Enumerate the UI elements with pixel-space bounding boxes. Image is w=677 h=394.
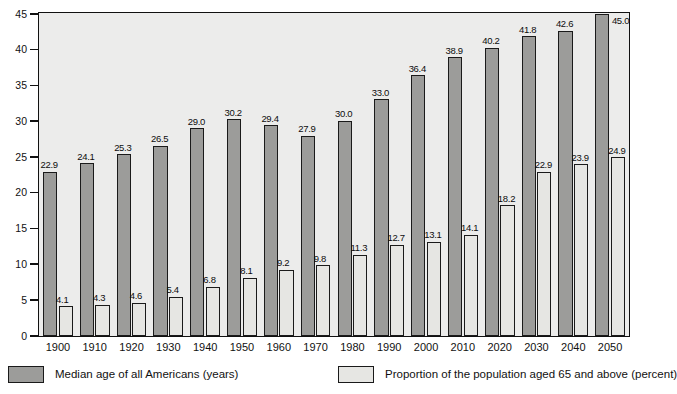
x-axis-tick-label: 1930 bbox=[150, 340, 187, 354]
bar-median-age[interactable] bbox=[448, 57, 462, 335]
bar-value-label: 13.1 bbox=[424, 230, 441, 240]
y-axis-tick-mark bbox=[30, 49, 38, 51]
bar-value-label: 29.4 bbox=[261, 114, 278, 124]
bar-proportion-65plus[interactable] bbox=[427, 242, 441, 336]
bar-value-label: 33.0 bbox=[372, 88, 389, 98]
y-axis-tick-mark bbox=[30, 120, 38, 122]
bar-proportion-65plus[interactable] bbox=[243, 278, 257, 336]
legend-item[interactable]: Proportion of the population aged 65 and… bbox=[338, 363, 677, 385]
bar-value-label: 42.6 bbox=[556, 19, 573, 29]
bar-value-label: 14.1 bbox=[461, 223, 478, 233]
x-axis-tick-label: 2000 bbox=[408, 340, 445, 354]
x-axis-tick-label: 1940 bbox=[187, 340, 224, 354]
bar-proportion-65plus[interactable] bbox=[390, 245, 404, 336]
bar-group: 38.914.1 bbox=[444, 14, 481, 336]
bar-group: 22.94.1 bbox=[40, 14, 77, 336]
bar-value-label: 29.0 bbox=[188, 117, 205, 127]
y-axis-tick-mark bbox=[30, 156, 38, 158]
bar-value-label: 25.3 bbox=[114, 143, 131, 153]
bar-group: 29.06.8 bbox=[187, 14, 224, 336]
x-axis-tick-label: 1980 bbox=[334, 340, 371, 354]
bar-group: 29.49.2 bbox=[260, 14, 297, 336]
bar-value-label: 24.1 bbox=[77, 152, 94, 162]
y-axis-tick-mark bbox=[30, 335, 38, 337]
chart-legend: Median age of all Americans (years)Propo… bbox=[8, 363, 628, 387]
bar-proportion-65plus[interactable] bbox=[95, 305, 109, 336]
bar-value-label: 11.3 bbox=[351, 243, 368, 253]
legend-swatch-median bbox=[8, 366, 44, 383]
bar-value-label: 4.6 bbox=[130, 291, 142, 301]
bar-value-label: 9.8 bbox=[314, 254, 326, 264]
bar-proportion-65plus[interactable] bbox=[59, 306, 73, 335]
bar-median-age[interactable] bbox=[558, 31, 572, 336]
y-axis-tick-label: 25 bbox=[15, 151, 27, 163]
bar-proportion-65plus[interactable] bbox=[279, 270, 293, 336]
bar-median-age[interactable] bbox=[80, 163, 94, 335]
y-axis-tick-mark bbox=[30, 85, 38, 87]
x-axis: 1900191019201930194019501960197019801990… bbox=[40, 340, 629, 358]
y-axis-tick-mark bbox=[30, 263, 38, 265]
bar-median-age[interactable] bbox=[522, 36, 536, 335]
bar-median-age[interactable] bbox=[374, 99, 388, 335]
bar-median-age[interactable] bbox=[338, 121, 352, 336]
bar-median-age[interactable] bbox=[43, 172, 57, 336]
y-axis-tick-label: 5 bbox=[21, 294, 27, 306]
y-axis-tick-label: 15 bbox=[15, 222, 27, 234]
bar-group: 30.28.1 bbox=[224, 14, 261, 336]
bar-proportion-65plus[interactable] bbox=[353, 255, 367, 336]
bar-median-age[interactable] bbox=[153, 146, 167, 336]
bar-group: 33.012.7 bbox=[371, 14, 408, 336]
legend-label: Proportion of the population aged 65 and… bbox=[385, 368, 677, 380]
bar-value-label: 5.4 bbox=[167, 285, 179, 295]
bar-proportion-65plus[interactable] bbox=[537, 172, 551, 336]
bar-proportion-65plus[interactable] bbox=[316, 265, 330, 335]
bar-group: 42.623.9 bbox=[555, 14, 592, 336]
x-axis-tick-label: 2040 bbox=[555, 340, 592, 354]
bar-value-label: 24.9 bbox=[608, 146, 625, 156]
bar-group: 40.218.2 bbox=[481, 14, 518, 336]
bar-value-label: 30.2 bbox=[225, 108, 242, 118]
legend-swatch-proportion bbox=[338, 366, 374, 383]
bar-median-age[interactable] bbox=[227, 119, 241, 335]
bar-value-label: 27.9 bbox=[298, 124, 315, 134]
bars-layer: 22.94.124.14.325.34.626.55.429.06.830.28… bbox=[40, 14, 629, 336]
bar-proportion-65plus[interactable] bbox=[132, 303, 146, 336]
bar-median-age[interactable] bbox=[264, 125, 278, 335]
bar-proportion-65plus[interactable] bbox=[169, 297, 183, 336]
bar-value-label: 8.1 bbox=[240, 266, 252, 276]
bar-proportion-65plus[interactable] bbox=[611, 157, 625, 335]
bar-value-label: 45.0 bbox=[612, 16, 629, 26]
bar-median-age[interactable] bbox=[190, 128, 204, 336]
bar-proportion-65plus[interactable] bbox=[206, 287, 220, 336]
bar-value-label: 18.2 bbox=[498, 194, 515, 204]
x-axis-tick-label: 2030 bbox=[518, 340, 555, 354]
bar-value-label: 22.9 bbox=[41, 160, 58, 170]
x-axis-tick-label: 1920 bbox=[113, 340, 150, 354]
bar-proportion-65plus[interactable] bbox=[574, 164, 588, 335]
x-axis-tick-label: 1900 bbox=[40, 340, 77, 354]
y-axis-tick-label: 45 bbox=[15, 8, 27, 20]
legend-label: Median age of all Americans (years) bbox=[55, 368, 238, 380]
bar-median-age[interactable] bbox=[595, 14, 609, 336]
y-axis-tick-label: 0 bbox=[21, 330, 27, 342]
bar-proportion-65plus[interactable] bbox=[464, 235, 478, 336]
bar-median-age[interactable] bbox=[485, 48, 499, 336]
legend-item[interactable]: Median age of all Americans (years) bbox=[8, 363, 238, 385]
y-axis-tick-mark bbox=[30, 299, 38, 301]
x-axis-tick-label: 1910 bbox=[76, 340, 113, 354]
y-axis-tick-mark bbox=[30, 13, 38, 15]
bar-median-age[interactable] bbox=[411, 75, 425, 335]
bar-median-age[interactable] bbox=[117, 154, 131, 335]
x-axis-tick-label: 1950 bbox=[224, 340, 261, 354]
x-axis-tick-label: 1990 bbox=[371, 340, 408, 354]
bar-group: 45.024.9 bbox=[592, 14, 629, 336]
y-axis-tick-label: 20 bbox=[15, 186, 27, 198]
bar-median-age[interactable] bbox=[301, 136, 315, 336]
bar-value-label: 36.4 bbox=[409, 64, 426, 74]
x-axis-tick-label: 2020 bbox=[481, 340, 518, 354]
bar-value-label: 41.8 bbox=[519, 25, 536, 35]
bar-value-label: 23.9 bbox=[571, 153, 588, 163]
bar-value-label: 40.2 bbox=[482, 36, 499, 46]
bar-proportion-65plus[interactable] bbox=[500, 205, 514, 335]
